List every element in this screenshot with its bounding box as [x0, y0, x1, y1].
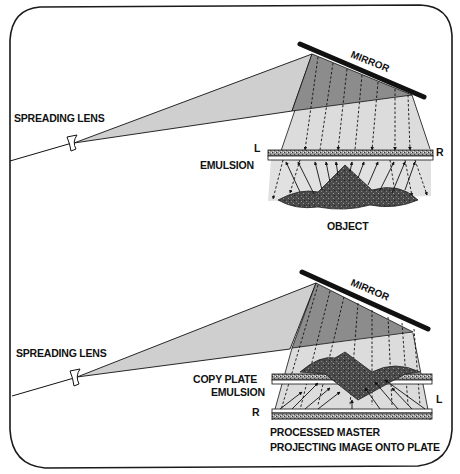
spreading-lens-label-top: SPREADING LENS — [14, 112, 105, 124]
right-marker-top: R — [436, 146, 444, 158]
right-marker-bottom: R — [252, 406, 260, 418]
bottom-panel: MIRROR — [12, 272, 443, 453]
mirror-label-bottom: MIRROR — [349, 277, 391, 303]
spreading-lens-icon-bottom — [70, 369, 80, 386]
diagram-canvas: MIRROR — [0, 0, 460, 474]
top-panel: MIRROR — [10, 44, 444, 232]
emulsion-label-top: EMULSION — [200, 159, 254, 171]
left-marker-bottom: L — [436, 393, 443, 405]
caption-line2: PROJECTING IMAGE ONTO PLATE — [270, 441, 440, 453]
object-label: OBJECT — [327, 220, 369, 232]
spread-beam-bottom — [77, 283, 316, 377]
left-marker-top: L — [254, 142, 261, 154]
processed-master-plate — [272, 409, 432, 419]
emulsion-plate-top — [268, 150, 433, 160]
laser-beam-line-bottom — [12, 378, 74, 396]
spreading-lens-label-bottom: SPREADING LENS — [16, 347, 107, 359]
spread-beam-top — [74, 54, 312, 143]
caption-line1: PROCESSED MASTER — [270, 426, 381, 438]
laser-beam-line-top — [10, 143, 72, 161]
copy-plate-label-line1: COPY PLATE — [193, 373, 257, 385]
copy-plate-label-line2: EMULSION — [211, 386, 265, 398]
